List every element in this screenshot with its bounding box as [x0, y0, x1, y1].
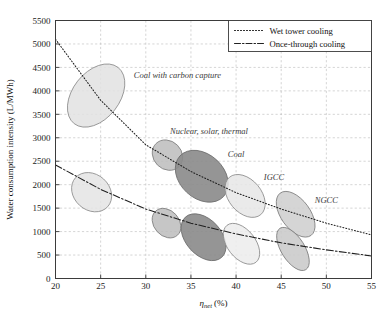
- x-tick-label: 25: [96, 281, 106, 291]
- chart-figure: 0500100015002000250030003500400045005000…: [0, 0, 389, 321]
- annotation-label: Nuclear, solar, thermal: [169, 126, 249, 136]
- y-tick-label: 3500: [33, 110, 52, 120]
- x-tick-label: 20: [51, 281, 61, 291]
- annotation-label: NGCC: [314, 195, 338, 205]
- y-tick-label: 1500: [33, 203, 52, 213]
- chart-svg: 0500100015002000250030003500400045005000…: [0, 0, 389, 321]
- x-tick-label: 55: [367, 281, 377, 291]
- legend-label: Once-through cooling: [270, 39, 346, 49]
- y-tick-label: 500: [37, 250, 51, 260]
- x-axis-title: ηnet(%): [200, 298, 228, 309]
- x-tick-label: 35: [186, 281, 196, 291]
- x-tick-label: 50: [322, 281, 332, 291]
- annotation-label: IGCC: [263, 172, 285, 182]
- y-tick-label: 5500: [33, 16, 52, 26]
- x-tick-label: 40: [232, 281, 242, 291]
- y-axis-title: Water consumption intensity (L/MWh): [5, 79, 15, 220]
- y-tick-label: 4500: [33, 63, 52, 73]
- legend-label: Wet tower cooling: [270, 26, 334, 36]
- y-tick-label: 1000: [33, 227, 52, 237]
- y-tick-label: 2000: [33, 180, 52, 190]
- annotation-label: Coal: [228, 149, 245, 159]
- annotation-label: Coal with carbon capture: [134, 70, 222, 80]
- y-tick-label: 3000: [33, 133, 52, 143]
- x-axis-title-subscript: net: [204, 301, 212, 308]
- x-tick-label: 45: [277, 281, 287, 291]
- x-axis-title-unit: (%): [214, 298, 228, 308]
- x-tick-label: 30: [141, 281, 151, 291]
- y-tick-label: 4000: [33, 86, 52, 96]
- y-tick-label: 2500: [33, 156, 52, 166]
- y-tick-label: 5000: [33, 39, 52, 49]
